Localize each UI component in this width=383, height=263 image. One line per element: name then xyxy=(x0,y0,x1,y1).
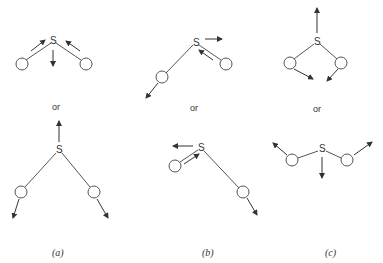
terminal-atom xyxy=(15,186,27,198)
terminal-atom xyxy=(237,186,249,198)
displacement-arrow-icon xyxy=(327,69,338,81)
displacement-arrow-icon xyxy=(294,69,313,79)
displacement-arrow-icon xyxy=(273,143,287,155)
displacement-arrow-icon xyxy=(146,83,158,98)
panel-b-top-molecule: S xyxy=(146,37,232,98)
terminal-atom xyxy=(286,154,298,166)
displacement-arrow-icon xyxy=(199,50,213,60)
displacement-arrow-icon xyxy=(354,142,372,155)
panel-b-bottom-molecule: S xyxy=(169,142,257,215)
or-separator: or xyxy=(313,104,321,114)
displacement-arrow-icon xyxy=(247,198,257,215)
terminal-atom xyxy=(16,58,28,70)
terminal-atom xyxy=(341,154,353,166)
terminal-atom xyxy=(169,160,181,172)
central-atom-label: S xyxy=(56,144,63,155)
or-separator: or xyxy=(52,102,60,112)
terminal-atom xyxy=(335,57,347,69)
central-atom-label: S xyxy=(319,143,326,154)
terminal-atom xyxy=(80,58,92,70)
central-atom-label: S xyxy=(314,36,321,47)
terminal-atom xyxy=(156,71,168,83)
panel-c-bottom-molecule: S xyxy=(273,142,372,178)
caption-c: (c) xyxy=(325,247,337,259)
panel-a-bottom-molecule: S xyxy=(13,121,108,218)
vibrational-modes-figure: S or S (a) S or S (b) xyxy=(0,0,383,263)
terminal-atom xyxy=(284,57,296,69)
central-atom-label: S xyxy=(193,37,200,48)
caption-a: (a) xyxy=(52,247,64,259)
displacement-arrow-icon xyxy=(97,199,108,218)
displacement-arrow-icon xyxy=(13,199,19,218)
panel-a-top-molecule: S xyxy=(16,35,92,70)
terminal-atom xyxy=(88,186,100,198)
caption-b: (b) xyxy=(202,247,214,259)
terminal-atom xyxy=(220,58,232,70)
or-separator: or xyxy=(190,103,198,113)
displacement-arrow-icon xyxy=(31,40,45,51)
panel-c-top-molecule: S xyxy=(284,8,347,81)
displacement-arrow-icon xyxy=(66,41,80,51)
central-atom-label: S xyxy=(198,142,205,153)
central-atom-label: S xyxy=(50,35,57,46)
displacement-arrow-icon xyxy=(184,154,199,164)
